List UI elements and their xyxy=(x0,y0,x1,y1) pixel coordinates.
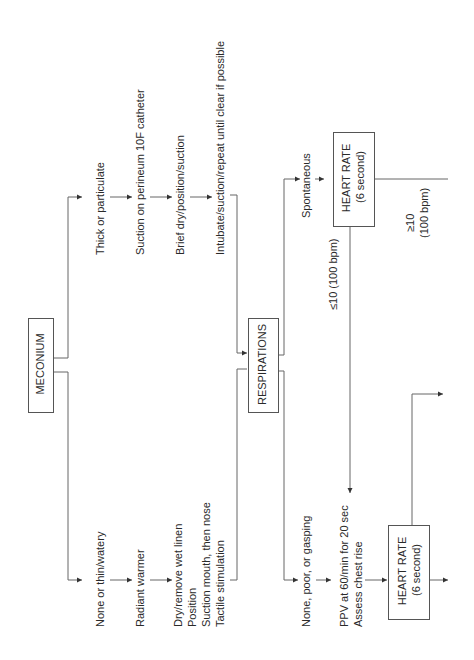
thick-or-particulate-label: Thick or particulate xyxy=(94,162,107,255)
hr-high-threshold-label: ≥10 xyxy=(404,214,417,232)
brief-dry-label: Brief dry/position/suction xyxy=(174,135,187,255)
dry-remove-linen-label: Dry/remove wet linen xyxy=(172,524,185,627)
meconium-label: MECONIUM xyxy=(34,329,47,399)
spontaneous-label: Spontaneous xyxy=(300,153,313,218)
position-label: Position xyxy=(186,588,199,627)
ppv-label: PPV at 60/min for 20 sec xyxy=(338,505,351,627)
suction-perineum-label: Suction on perineum 10F catheter xyxy=(134,89,147,255)
heart-rate-bottom-sub: (6 second) xyxy=(410,542,423,598)
assess-chest-rise-label: Assess chest rise xyxy=(352,541,365,627)
heart-rate-top-label: HEART RATE xyxy=(340,142,353,214)
radiant-warmer-label: Radiant warmer xyxy=(134,549,147,627)
hr-high-bpm-label: (100 bpm) xyxy=(418,188,431,238)
none-poor-gasping-label: None, poor, or gasping xyxy=(300,516,313,627)
none-thin-watery-label: None or thin/watery xyxy=(94,532,107,627)
respirations-label: RESPIRATIONS xyxy=(256,325,269,405)
intubate-suction-label: Intubate/suction/repeat until clear if p… xyxy=(214,41,227,255)
heart-rate-top-sub: (6 second) xyxy=(354,149,367,205)
flowchart-canvas: MECONIUM Thick or particulate Suction on… xyxy=(0,0,474,660)
heart-rate-box-bottom xyxy=(388,525,430,620)
suction-mouth-nose-label: Suction mouth, then nose xyxy=(200,502,213,627)
hr-low-threshold-label: ≤10 (100 bpm) xyxy=(327,239,340,310)
tactile-stimulation-label: Tactile stimulation xyxy=(214,540,227,627)
heart-rate-bottom-label: HEART RATE xyxy=(396,535,409,607)
